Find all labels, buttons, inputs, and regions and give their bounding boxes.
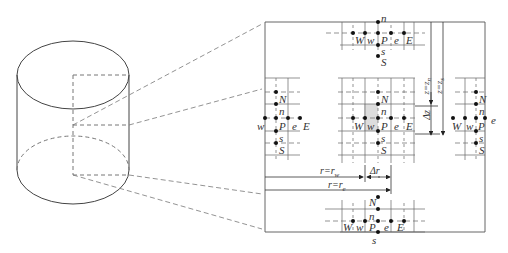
label-P-center: P [381, 121, 388, 132]
label-s-left: s [279, 133, 283, 144]
label-z-zn: z=zn [422, 78, 433, 95]
label-s-bottom: s [372, 235, 376, 246]
label-N-bottom: N [369, 197, 376, 208]
label-r-re: r=re [328, 180, 346, 193]
label-P-left: P [279, 121, 286, 132]
label-S-center: S [381, 145, 387, 156]
label-n-top: n [381, 13, 387, 24]
label-P-right: P [478, 121, 485, 132]
label-n-center: n [381, 106, 387, 117]
label-r-rw: r=rw [320, 166, 339, 179]
label-W-bottom: W [343, 222, 352, 233]
label-w-right: w [466, 121, 473, 132]
label-e-top: e [394, 35, 399, 46]
label-e-left: e [292, 121, 297, 132]
label-delta-r: Δr [370, 166, 380, 176]
label-E-center: E [406, 121, 413, 132]
label-E-left: E [303, 121, 310, 132]
label-S-right: S [479, 145, 485, 156]
label-delta-z: Δz [422, 110, 432, 120]
cylinder [17, 41, 129, 204]
label-S-left: S [279, 145, 285, 156]
label-W-center: W [354, 121, 363, 132]
label-N-left: N [279, 94, 286, 105]
label-e-bottom: e [384, 222, 389, 233]
label-s-right: s [479, 133, 483, 144]
label-w-center: w [367, 121, 374, 132]
label-W-top: W [355, 35, 364, 46]
label-e-center: e [394, 121, 399, 132]
label-E-bottom: E [397, 222, 404, 233]
label-n-left: n [279, 106, 285, 117]
label-N-right: N [479, 94, 486, 105]
diagram-canvas [0, 0, 508, 253]
label-w-top: w [367, 35, 374, 46]
label-E-top: E [406, 35, 413, 46]
label-s-center: s [381, 133, 385, 144]
label-n-right: n [479, 106, 485, 117]
label-w-left: w [257, 121, 264, 132]
label-w-bottom: w [356, 222, 363, 233]
label-e-right: e [491, 115, 496, 126]
label-N-center: N [381, 94, 388, 105]
label-W-right: W [452, 121, 461, 132]
label-z-zs: z=zs [435, 78, 446, 94]
projection-lines [73, 24, 262, 229]
label-P-bottom: P [369, 222, 376, 233]
label-S-top: S [381, 57, 387, 68]
